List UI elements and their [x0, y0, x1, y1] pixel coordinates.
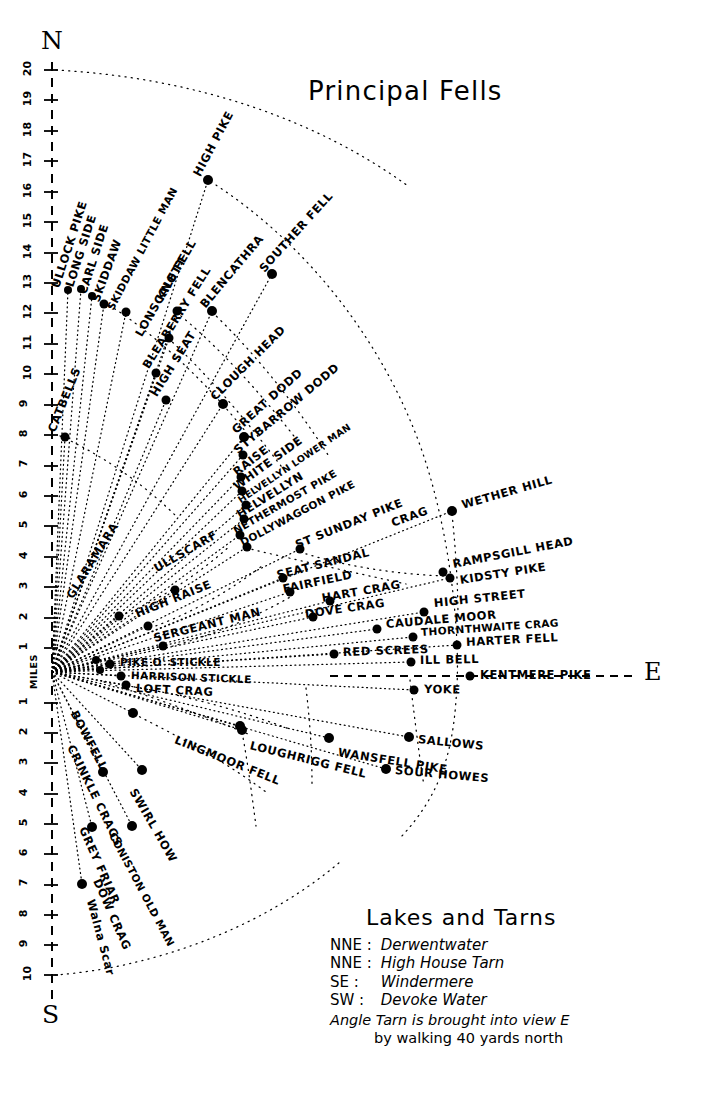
axis-tick-label: 4	[17, 551, 30, 559]
axis-tick-label: 14	[21, 243, 34, 258]
fell-label: PIKE O' STICKLE	[120, 657, 221, 668]
legend-name: High House Tarn	[381, 954, 504, 972]
axis-tick-label: 16	[21, 183, 34, 198]
axis-tick-label: 9	[17, 399, 30, 407]
axis-tick-label: 19	[21, 91, 34, 106]
axis-tick-label: 3	[17, 582, 30, 590]
legend-name: Windermere	[381, 973, 474, 991]
legend-row: SE : Windermere	[330, 973, 690, 991]
axis-tick-label: 18	[21, 122, 34, 137]
axis-tick-label: 1	[17, 698, 30, 706]
legend-bearing: SE :	[330, 973, 376, 991]
legend-name: Derwentwater	[381, 936, 488, 954]
legend-heading: Lakes and Tarns	[366, 905, 690, 930]
fell-label: KENTMERE PIKE	[480, 670, 592, 682]
axis-tick-label: 12	[21, 304, 34, 319]
axis-tick-label: 8	[17, 430, 30, 438]
axis-tick-label: 11	[21, 335, 34, 350]
legend-row: NNE : High House Tarn	[330, 954, 690, 972]
cardinal-south: S	[42, 1000, 59, 1029]
legend-note-line2: by walking 40 yards north	[374, 1029, 690, 1047]
legend-bearing: NNE :	[330, 936, 376, 954]
axis-tick-label: 10	[21, 966, 34, 981]
fell-label: RED SCREES	[343, 644, 429, 658]
legend-note: Angle Tarn is brought into view E by wal…	[330, 1011, 690, 1047]
axis-tick-label: 5	[17, 819, 30, 827]
legend-note-line1: Angle Tarn is brought into view E	[330, 1012, 570, 1028]
legend-bearing: SW :	[330, 991, 376, 1009]
axis-tick-label: 2	[17, 612, 30, 620]
axis-tick-label: 7	[17, 879, 30, 887]
cardinal-north: N	[41, 26, 63, 55]
axis-tick-label: 15	[21, 213, 34, 228]
axis-tick-label: 10	[21, 365, 34, 380]
legend-row: NNE : Derwentwater	[330, 936, 690, 954]
axis-tick-label: 2	[17, 728, 30, 736]
axis-tick-label: 3	[17, 758, 30, 766]
axis-tick-label: 9	[17, 939, 30, 947]
panorama-diagram: .ray{stroke:#000;stroke-width:1.25;strok…	[0, 0, 703, 1094]
fell-label: YOKE	[424, 684, 461, 696]
axis-tick-label: 6	[17, 491, 30, 499]
axis-tick-label: 8	[17, 909, 30, 917]
legend-name: Devoke Water	[381, 991, 487, 1009]
cardinal-east: E	[644, 658, 662, 686]
axis-tick-label: 1	[17, 643, 30, 651]
page-title: Principal Fells	[308, 76, 503, 106]
legend-row: SW : Devoke Water	[330, 991, 690, 1009]
axis-tick-label: 6	[17, 849, 30, 857]
axis-tick-label: 5	[17, 521, 30, 529]
fell-label: ILL BELL	[420, 654, 479, 667]
axis-tick-label: 7	[17, 460, 30, 468]
legend-bearing: NNE :	[330, 954, 376, 972]
axis-unit-label: MILES	[28, 654, 39, 689]
lakes-and-tarns-legend: Lakes and Tarns NNE : Derwentwater NNE :…	[330, 905, 690, 1047]
axis-tick-label: 4	[17, 788, 30, 796]
axis-tick-label: 13	[21, 274, 34, 289]
axis-tick-label: 20	[21, 61, 34, 76]
axis-tick-label: 17	[21, 152, 34, 167]
